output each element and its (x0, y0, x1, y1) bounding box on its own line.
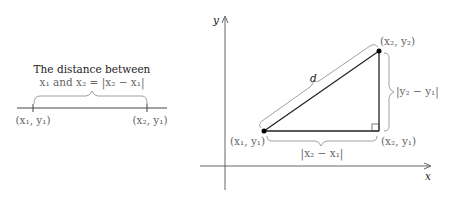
left-point2-label: (x₂, y₁) (132, 114, 167, 126)
horizontal-brace (267, 136, 377, 146)
hypotenuse-line (264, 51, 379, 131)
left-brace (34, 91, 147, 104)
vertical-brace (384, 53, 394, 131)
right-angle-marker (372, 124, 379, 131)
x-axis-label: x (425, 170, 431, 182)
point-2-label: (x₂, y₂) (380, 35, 415, 47)
left-point1-label: (x₁, y₁) (15, 114, 50, 126)
point-1-label: (x₁, y₁) (230, 135, 265, 147)
coordinate-plane-figure: y x d |x₂ − x₁| |y₂ − y₁| (x₁, y₁) (x₂, … (200, 14, 439, 190)
vertical-distance-label: |y₂ − y₁| (396, 85, 439, 99)
hypotenuse-brace (260, 45, 378, 128)
hypotenuse-label: d (310, 72, 317, 84)
point-1-dot (262, 129, 267, 134)
left-title-line1: The distance between (34, 63, 151, 75)
distance-diagram: The distance between x₁ and x₂ = |x₂ − x… (0, 0, 451, 199)
point-2-dot (377, 49, 382, 54)
horizontal-distance-label: |x₂ − x₁| (301, 147, 344, 161)
corner-point-label: (x₂, y₁) (381, 135, 416, 147)
number-line-figure: The distance between x₁ and x₂ = |x₂ − x… (15, 63, 167, 126)
left-title-line2: x₁ and x₂ = |x₂ − x₁| (40, 76, 145, 90)
y-axis-label: y (212, 14, 220, 26)
